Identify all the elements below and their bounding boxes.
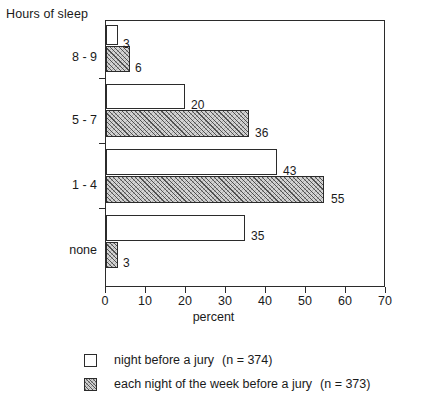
x-axis-tick — [385, 287, 386, 293]
bar-5-7-each-night[interactable] — [106, 110, 249, 137]
category-label-none: none — [35, 243, 97, 257]
x-axis-tick — [225, 287, 226, 293]
legend-item-night-before-a-jury[interactable]: night before a jury (n = 374) — [84, 348, 444, 372]
bar-value-label: 35 — [251, 230, 264, 242]
bar-value-label: 43 — [283, 165, 296, 177]
bar-value-label: 36 — [255, 127, 268, 139]
legend-item-sample-size: (n = 374) — [222, 353, 272, 367]
bar-value-label: 6 — [135, 62, 142, 74]
legend-item-label: night before a jury — [114, 353, 214, 367]
x-axis-tick — [105, 287, 106, 293]
x-axis-tick — [345, 287, 346, 293]
x-axis-tick-label: 60 — [325, 294, 365, 308]
x-axis-title: percent — [0, 310, 447, 324]
hatched-square-icon — [84, 378, 97, 391]
bar-5-7-night-before[interactable] — [106, 84, 185, 109]
legend: night before a jury (n = 374) each night… — [84, 348, 444, 396]
category-label-8-9: 8 - 9 — [35, 50, 97, 64]
x-axis-title-text: percent — [193, 310, 235, 324]
bar-1-4-each-night[interactable] — [106, 176, 324, 203]
legend-item-sample-size: (n = 373) — [320, 377, 370, 391]
x-axis-tick-label: 10 — [125, 294, 165, 308]
legend-item-label: each night of the week before a jury — [114, 377, 312, 391]
x-axis-tick-label: 30 — [205, 294, 245, 308]
bar-none-each-night[interactable] — [106, 242, 118, 268]
bar-none-night-before[interactable] — [106, 215, 245, 241]
plot-area — [105, 20, 385, 287]
bar-value-label: 55 — [331, 193, 344, 205]
x-axis-tick-label: 20 — [165, 294, 205, 308]
x-axis-tick — [265, 287, 266, 293]
x-axis-tick-label: 0 — [85, 294, 125, 308]
x-axis-tick-label: 50 — [285, 294, 325, 308]
category-label-1-4: 1 - 4 — [35, 178, 97, 192]
y-axis-tick — [99, 208, 105, 209]
bar-value-label: 20 — [191, 99, 204, 111]
bar-value-label: 3 — [123, 38, 130, 50]
bar-chart: Hours of sleep 3 6 20 36 43 55 35 3 8 - … — [0, 0, 447, 400]
bar-value-label: 3 — [123, 257, 130, 269]
bar-8-9-night-before[interactable] — [106, 25, 118, 45]
legend-item-each-night-of-the-week[interactable]: each night of the week before a jury (n … — [84, 372, 444, 396]
x-axis-tick — [145, 287, 146, 293]
open-square-icon — [84, 354, 97, 367]
y-axis-tick — [99, 78, 105, 79]
bar-1-4-night-before[interactable] — [106, 149, 277, 175]
x-axis-tick-label: 40 — [245, 294, 285, 308]
x-axis-tick — [185, 287, 186, 293]
x-axis-tick — [305, 287, 306, 293]
y-axis-title: Hours of sleep — [6, 7, 88, 21]
category-label-5-7: 5 - 7 — [35, 113, 97, 127]
x-axis-tick-label: 70 — [365, 294, 405, 308]
y-axis-tick — [99, 143, 105, 144]
